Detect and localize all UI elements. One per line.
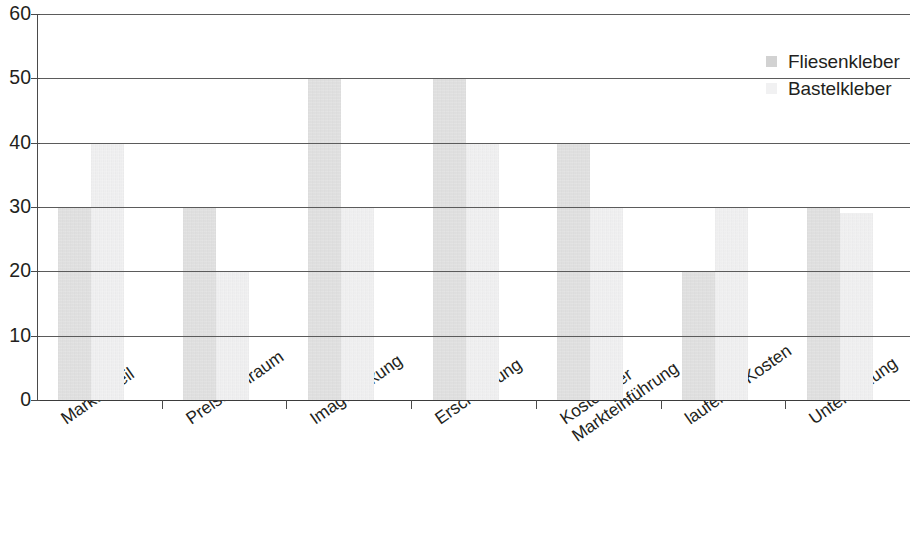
gridline [37,336,910,337]
bar [308,78,341,400]
x-axis-tick [411,400,412,409]
bar [715,207,748,400]
x-axis-tick [286,400,287,409]
bar [807,207,840,400]
y-axis-label: 10 [0,326,31,346]
x-axis-tick [661,400,662,409]
gridline [37,271,910,272]
y-axis-tick [31,336,40,337]
bar [840,213,873,400]
bar [433,78,466,400]
y-axis-tick [31,78,40,79]
bar [183,207,216,400]
y-axis-label: 20 [0,261,31,281]
legend-swatch-icon [766,56,777,67]
legend-swatch-icon [766,83,777,94]
legend-item: Bastelkleber [766,75,900,102]
x-axis-tick [785,400,786,409]
y-axis-tick [31,400,40,401]
y-axis-label: 60 [0,4,31,24]
bar [590,207,623,400]
y-axis-tick [31,143,40,144]
legend-label: Bastelkleber [788,78,891,100]
gridline [37,207,910,208]
gridline [37,143,910,144]
y-axis-label: 50 [0,68,31,88]
y-axis-tick [31,207,40,208]
y-axis-label: 0 [0,390,31,410]
x-axis-tick [162,400,163,409]
gridline [37,14,910,15]
legend-item: Fliesenkleber [766,48,900,75]
y-axis-label: 40 [0,133,31,153]
chart-legend: FliesenkleberBastelkleber [766,48,900,102]
bar-chart: 0102030405060 MarktanteilPreisspielraumI… [0,0,920,547]
legend-label: Fliesenkleber [788,51,900,73]
y-axis-tick [31,271,40,272]
y-axis-label: 30 [0,197,31,217]
x-axis-tick [536,400,537,409]
x-axis-baseline [37,400,910,401]
y-axis-tick [31,14,40,15]
bar [58,207,91,400]
bar [341,207,374,400]
